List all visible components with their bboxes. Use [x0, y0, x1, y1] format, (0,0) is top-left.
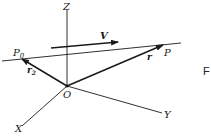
origin-point: [65, 84, 68, 87]
edge-fragment-text: F: [203, 65, 210, 77]
line-p0-p: [2, 43, 181, 61]
y-axis-label: Y: [164, 109, 172, 120]
r-label: r: [147, 52, 153, 62]
p-label: P: [163, 47, 171, 58]
x-axis-label: X: [14, 123, 23, 134]
x-axis: [22, 86, 67, 126]
y-axis: [67, 86, 162, 113]
origin-label: O: [63, 89, 71, 100]
vector-diagram: Z Y X O P0 P V r r2 F: [0, 0, 211, 136]
v-label: V: [100, 30, 109, 41]
z-axis-label: Z: [62, 1, 71, 12]
p0-label: P0: [12, 47, 25, 60]
v-vector-arrow: [51, 42, 118, 48]
